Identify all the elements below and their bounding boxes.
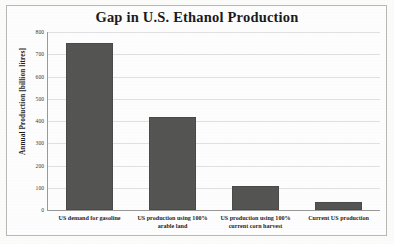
bar [149, 117, 196, 210]
chart-page: Gap in U.S. Ethanol Production Annual Pr… [0, 0, 394, 244]
y-axis-tick-labels: 8007006005004003002001000 [14, 32, 44, 210]
x-category-label: US demand for gasoline [51, 214, 128, 222]
x-axis-line [48, 210, 380, 211]
y-tick-label: 800 [14, 29, 44, 35]
y-tick-label: 400 [14, 118, 44, 124]
y-tick-label: 300 [14, 140, 44, 146]
chart-title: Gap in U.S. Ethanol Production [0, 9, 394, 26]
bar [232, 186, 279, 210]
bar [66, 43, 113, 210]
y-tick-label: 600 [14, 74, 44, 80]
y-tick-label: 700 [14, 51, 44, 57]
x-category-label: US production using 100%arable land [134, 214, 211, 230]
bar [315, 202, 362, 210]
y-tick-label: 0 [14, 207, 44, 213]
gridline [48, 32, 380, 33]
x-category-label: Current US production [300, 214, 377, 222]
y-tick-label: 100 [14, 185, 44, 191]
x-category-label: US production using 100%current corn har… [217, 214, 294, 230]
y-tick-label: 200 [14, 163, 44, 169]
plot-area [48, 32, 380, 210]
y-tick-label: 500 [14, 96, 44, 102]
